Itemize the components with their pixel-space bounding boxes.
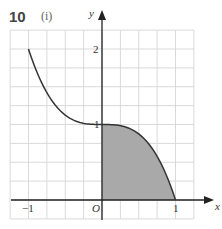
x-axis-label: x [214,200,220,212]
x-axis-arrow-icon [204,196,214,204]
y-axis-label: y [88,7,94,19]
x-tick-1: 1 [173,202,179,214]
x-tick-neg1: −1 [22,202,34,214]
y-axis-arrow-icon [98,10,106,20]
y-tick-1: 1 [94,118,100,130]
y-tick-2: 2 [93,43,99,55]
origin-label: O [92,202,100,214]
graph: x y O −1 1 1 2 [0,0,222,229]
